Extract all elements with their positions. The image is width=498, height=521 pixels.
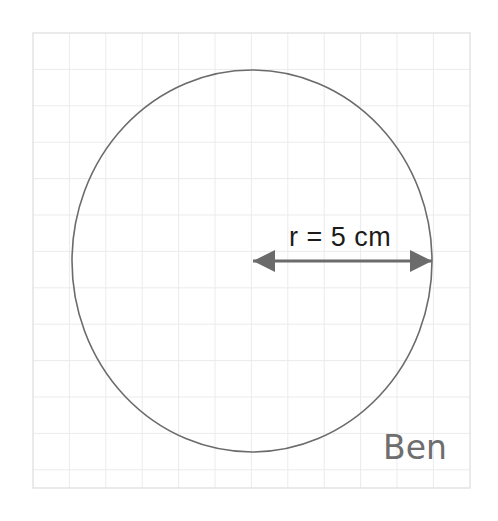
circle-figure-svg: r = 5 cm Ben [0, 0, 498, 521]
worksheet-canvas: r = 5 cm Ben [0, 0, 498, 521]
radius-label: r = 5 cm [289, 222, 391, 252]
student-signature: Ben [383, 428, 447, 467]
